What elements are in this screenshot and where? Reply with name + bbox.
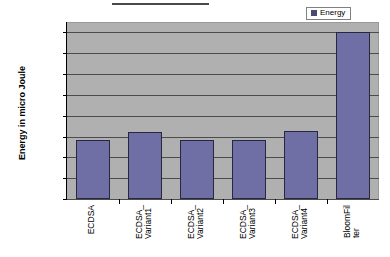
bars-group bbox=[67, 22, 379, 199]
bar-slot bbox=[119, 22, 171, 199]
y-tick-mark bbox=[63, 74, 67, 75]
y-tick-mark bbox=[63, 137, 67, 138]
x-tick-mark bbox=[327, 199, 328, 204]
x-category-label: ECDSA_ Variant4 bbox=[291, 205, 309, 239]
x-label-slot: ECDSA_ Variant3 bbox=[222, 205, 274, 257]
bar-slot bbox=[327, 22, 379, 199]
bar-slot bbox=[171, 22, 223, 199]
bar-slot bbox=[223, 22, 275, 199]
x-label-slot: ECDSA_ Variant2 bbox=[170, 205, 222, 257]
x-tick-mark bbox=[275, 199, 276, 204]
y-axis-title: Energy in micro Joule bbox=[17, 33, 27, 193]
bar[interactable] bbox=[128, 132, 162, 199]
y-tick-mark bbox=[63, 32, 67, 33]
x-tick-mark bbox=[119, 199, 120, 204]
x-category-label: ECDSA_ Variant3 bbox=[239, 205, 257, 239]
legend-label-energy: Energy bbox=[320, 9, 345, 17]
y-tick-mark bbox=[63, 95, 67, 96]
bar[interactable] bbox=[180, 140, 214, 199]
chart-legend: Energy bbox=[306, 7, 351, 20]
x-tick-mark bbox=[223, 199, 224, 204]
x-category-label: ECDSA_ Variant1 bbox=[135, 205, 153, 239]
x-tick-mark bbox=[171, 199, 172, 204]
bar[interactable] bbox=[76, 140, 110, 199]
y-tick-mark bbox=[63, 178, 67, 179]
legend-swatch-energy bbox=[311, 10, 317, 16]
x-category-label: BloomFil ter bbox=[343, 205, 361, 238]
x-category-label: ECDSA bbox=[87, 205, 96, 234]
x-category-label: ECDSA_ Variant2 bbox=[187, 205, 205, 239]
y-tick-mark bbox=[63, 199, 67, 200]
plot-area bbox=[66, 22, 379, 200]
x-category-labels-group: ECDSAECDSA_ Variant1ECDSA_ Variant2ECDSA… bbox=[66, 205, 378, 257]
x-label-slot: BloomFil ter bbox=[326, 205, 378, 257]
title-underline-rule bbox=[112, 3, 209, 5]
x-label-slot: ECDSA_ Variant1 bbox=[118, 205, 170, 257]
bar[interactable] bbox=[232, 140, 266, 199]
x-label-slot: ECDSA_ Variant4 bbox=[274, 205, 326, 257]
y-tick-mark bbox=[63, 53, 67, 54]
bar-slot bbox=[275, 22, 327, 199]
bar[interactable] bbox=[336, 32, 370, 199]
bar-slot bbox=[67, 22, 119, 199]
x-label-slot: ECDSA bbox=[66, 205, 118, 257]
y-tick-mark bbox=[63, 116, 67, 117]
chart-root: Energy Energy in micro Joule 53909.65390… bbox=[0, 0, 390, 257]
y-tick-mark bbox=[63, 157, 67, 158]
bar[interactable] bbox=[284, 131, 318, 199]
